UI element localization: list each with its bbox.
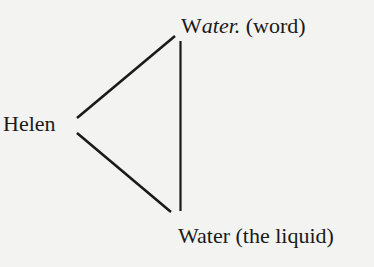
- node-water-word: Water. (word): [181, 15, 306, 37]
- node-liquid-label: Water (the liquid): [178, 223, 334, 248]
- node-water-liquid: Water (the liquid): [178, 225, 334, 247]
- node-word-italic: ater.: [202, 13, 241, 38]
- edge-helen-word: [77, 36, 175, 118]
- edge-helen-liquid: [77, 133, 171, 212]
- node-word-initial: W: [181, 13, 202, 38]
- node-helen: Helen: [3, 113, 56, 135]
- node-word-rest: (word): [240, 13, 305, 38]
- node-helen-label: Helen: [3, 111, 56, 136]
